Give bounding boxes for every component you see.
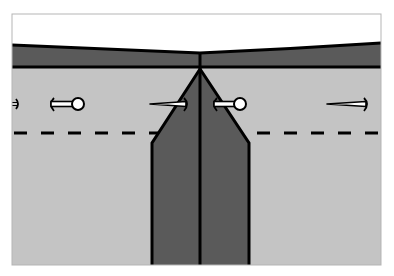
pleat-diagram — [0, 0, 394, 276]
